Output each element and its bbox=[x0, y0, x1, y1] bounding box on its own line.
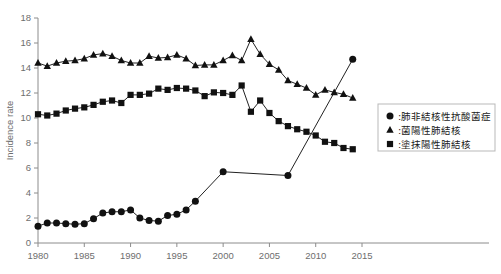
data-point-square bbox=[127, 92, 133, 98]
x-tick-label: 1990 bbox=[120, 250, 141, 261]
x-tick-label: 2000 bbox=[213, 250, 234, 261]
y-tick-label: 16 bbox=[20, 37, 31, 48]
data-point-square bbox=[192, 87, 198, 93]
x-tick-label: 1985 bbox=[74, 250, 95, 261]
data-point-square bbox=[155, 86, 161, 92]
data-point-square bbox=[72, 106, 78, 112]
y-tick-label: 18 bbox=[20, 12, 31, 23]
data-point-square bbox=[303, 129, 309, 135]
data-point-square bbox=[313, 132, 319, 138]
chart-container: 0246810121416181980198519901995200020052… bbox=[0, 0, 501, 274]
data-point-circle bbox=[349, 56, 356, 63]
data-point-triangle bbox=[238, 57, 245, 64]
data-point-square bbox=[229, 92, 235, 98]
data-point-square bbox=[44, 112, 50, 118]
legend-item: :塗抹陽性肺結核 bbox=[387, 139, 471, 150]
data-point-circle bbox=[220, 168, 227, 175]
legend-label: :肺非結核性抗酸菌症 bbox=[398, 111, 491, 122]
legend-item: :菌陽性肺結核 bbox=[386, 125, 461, 136]
data-point-square bbox=[165, 87, 171, 93]
data-point-square bbox=[81, 104, 87, 110]
data-point-square bbox=[331, 140, 337, 146]
legend-label: :塗抹陽性肺結核 bbox=[398, 139, 471, 150]
y-tick-label: 4 bbox=[26, 187, 31, 198]
y-axis-title: Incidence rate bbox=[4, 101, 15, 161]
data-point-square bbox=[100, 99, 106, 105]
data-point-square bbox=[387, 141, 393, 147]
data-point-triangle bbox=[210, 61, 217, 68]
data-point-square bbox=[294, 126, 300, 132]
legend-item: :肺非結核性抗酸菌症 bbox=[387, 111, 492, 122]
y-tick-label: 12 bbox=[20, 87, 31, 98]
data-point-triangle bbox=[145, 52, 152, 59]
data-point-triangle bbox=[219, 57, 226, 64]
data-point-circle bbox=[127, 206, 134, 213]
data-point-triangle bbox=[247, 35, 254, 42]
data-point-circle bbox=[136, 215, 143, 222]
series-circle bbox=[35, 56, 357, 230]
data-point-square bbox=[220, 90, 226, 96]
data-point-square bbox=[239, 82, 245, 88]
data-point-circle bbox=[387, 113, 394, 120]
data-point-circle bbox=[62, 220, 69, 227]
data-point-circle bbox=[118, 208, 125, 215]
data-point-square bbox=[350, 146, 356, 152]
data-point-square bbox=[266, 110, 272, 116]
data-point-circle bbox=[72, 221, 79, 228]
data-point-triangle bbox=[173, 51, 180, 58]
y-tick-label: 6 bbox=[26, 162, 31, 173]
data-point-circle bbox=[284, 172, 291, 179]
data-point-square bbox=[90, 102, 96, 108]
chart-legend: :肺非結核性抗酸菌症:菌陽性肺結核:塗抹陽性肺結核 bbox=[378, 104, 495, 151]
data-point-triangle bbox=[312, 91, 319, 98]
data-point-circle bbox=[146, 217, 153, 224]
data-point-square bbox=[285, 123, 291, 129]
data-point-circle bbox=[99, 210, 106, 217]
x-tick-label: 1995 bbox=[166, 250, 187, 261]
data-point-circle bbox=[183, 206, 190, 213]
data-point-square bbox=[63, 107, 69, 113]
data-point-square bbox=[248, 109, 254, 115]
y-tick-label: 2 bbox=[26, 212, 31, 223]
data-point-square bbox=[35, 111, 41, 117]
data-point-triangle bbox=[34, 59, 41, 66]
data-point-triangle bbox=[201, 61, 208, 68]
data-point-triangle bbox=[99, 50, 106, 57]
data-point-circle bbox=[164, 212, 171, 219]
data-point-square bbox=[276, 118, 282, 124]
data-point-square bbox=[322, 139, 328, 145]
data-point-square bbox=[202, 93, 208, 99]
data-point-circle bbox=[81, 220, 88, 227]
data-point-circle bbox=[155, 218, 162, 225]
data-point-triangle bbox=[275, 66, 282, 73]
data-point-square bbox=[53, 111, 59, 117]
data-point-square bbox=[257, 97, 263, 103]
data-point-circle bbox=[35, 223, 42, 230]
y-tick-label: 14 bbox=[20, 62, 31, 73]
data-point-triangle bbox=[256, 50, 263, 57]
data-point-square bbox=[137, 92, 143, 98]
data-point-triangle bbox=[118, 57, 125, 64]
data-point-circle bbox=[109, 208, 116, 215]
y-tick-label: 10 bbox=[20, 112, 31, 123]
x-tick-label: 2015 bbox=[351, 250, 372, 261]
data-point-square bbox=[109, 97, 115, 103]
data-point-circle bbox=[53, 220, 60, 227]
data-point-triangle bbox=[229, 52, 236, 59]
x-tick-label: 2010 bbox=[305, 250, 326, 261]
data-point-square bbox=[211, 89, 217, 95]
x-tick-label: 2005 bbox=[259, 250, 280, 261]
y-tick-label: 0 bbox=[26, 237, 31, 248]
y-tick-label: 8 bbox=[26, 137, 31, 148]
data-point-square bbox=[118, 100, 124, 106]
data-point-circle bbox=[173, 211, 180, 218]
data-point-circle bbox=[192, 198, 199, 205]
data-point-circle bbox=[44, 220, 51, 227]
data-point-square bbox=[183, 86, 189, 92]
series-square bbox=[35, 82, 356, 152]
data-point-square bbox=[340, 145, 346, 151]
x-tick-label: 1980 bbox=[27, 250, 48, 261]
data-point-square bbox=[174, 85, 180, 91]
incidence-rate-line-chart: 0246810121416181980198519901995200020052… bbox=[0, 0, 501, 274]
data-point-square bbox=[146, 91, 152, 97]
